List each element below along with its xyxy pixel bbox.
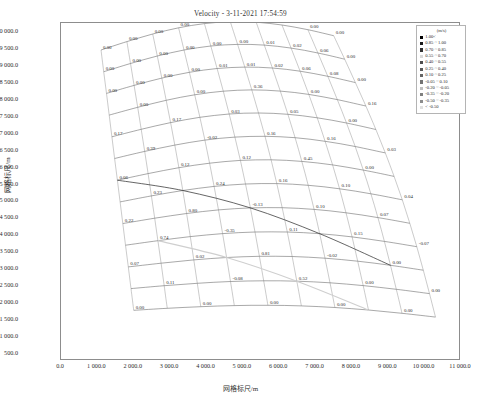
mesh-line bbox=[101, 50, 134, 310]
node-value-label: 0.01 bbox=[247, 62, 256, 67]
node-value-label: 0.11 bbox=[289, 227, 298, 232]
node-value-label: 0.05 bbox=[290, 109, 299, 114]
legend-entry-label: -0.35 ~ -0.20 bbox=[425, 92, 449, 97]
node-value-label: 0.16 bbox=[368, 101, 377, 106]
legend-entry-label: 1.00< bbox=[425, 35, 436, 40]
node-value-label: 0.00 bbox=[311, 89, 320, 94]
legend-entry-label: -0.05 ~ 0.10 bbox=[425, 80, 447, 85]
node-value-label: 0.16 bbox=[267, 131, 276, 136]
node-value-label: 0.02 bbox=[274, 63, 283, 68]
x-tick-label: 5 000.0 bbox=[233, 362, 252, 369]
x-tick-label: 2 000.0 bbox=[123, 362, 142, 369]
x-tick-label: 6 000.0 bbox=[269, 362, 288, 369]
legend-entry-label: 0.25 ~ 0.40 bbox=[425, 67, 446, 72]
node-value-label: 0.00 bbox=[404, 308, 413, 313]
y-tick-label: 7 500.0 bbox=[0, 111, 18, 118]
node-value-label: 0.06 bbox=[320, 48, 329, 53]
x-tick-label: 3 000.0 bbox=[160, 362, 179, 369]
node-value-label: -0.13 bbox=[252, 202, 263, 207]
node-value-label: -0.02 bbox=[207, 135, 218, 140]
y-tick-label: 500.0 bbox=[0, 348, 18, 355]
node-value-label: 0.02 bbox=[196, 254, 205, 259]
node-value-label: 0.06 bbox=[119, 175, 128, 180]
legend-color-swatch bbox=[420, 36, 423, 39]
legend-entry-label: -0.50 ~ -0.35 bbox=[425, 99, 449, 104]
x-tick-label: 11 000.0 bbox=[449, 362, 470, 369]
node-value-label: 0.07 bbox=[380, 212, 389, 217]
mesh-line bbox=[123, 208, 410, 224]
mesh-line bbox=[230, 23, 301, 306]
node-value-label: 0.00 bbox=[197, 89, 206, 94]
legend-color-swatch bbox=[420, 55, 423, 58]
node-value-label: 0.00 bbox=[109, 88, 118, 93]
node-value-label: 0.00 bbox=[181, 23, 190, 27]
node-value-label: 0.16 bbox=[279, 178, 288, 183]
y-axis-title: 网格标尺/m bbox=[2, 138, 12, 212]
node-value-label: 0.00 bbox=[136, 305, 145, 310]
legend-color-swatch bbox=[420, 93, 423, 96]
node-value-label: 0.00 bbox=[103, 45, 112, 50]
node-value-label: 0.00 bbox=[213, 41, 222, 46]
node-value-label: 0.15 bbox=[354, 231, 363, 236]
node-value-label: 0.74 bbox=[160, 235, 169, 240]
mesh-line bbox=[117, 160, 394, 180]
legend-color-swatch bbox=[420, 61, 423, 64]
node-value-label: 0.00 bbox=[270, 300, 279, 305]
node-value-label: 0.24 bbox=[216, 181, 225, 186]
node-value-label: 0.23 bbox=[153, 190, 162, 195]
node-value-label: 0.00 bbox=[203, 301, 212, 306]
node-value-label: 0.00 bbox=[133, 58, 142, 63]
node-value-label: 0.00 bbox=[432, 288, 441, 293]
y-tick-label: 4 000.0 bbox=[0, 230, 18, 237]
node-value-label: 0.10 bbox=[342, 183, 351, 188]
legend-entry-label: -0.20 ~ -0.05 bbox=[425, 86, 449, 91]
legend-entry-label: 0.55 ~ 0.70 bbox=[425, 54, 446, 59]
legend-color-swatch bbox=[420, 68, 423, 71]
legend-entry: < -0.50 bbox=[420, 104, 463, 110]
legend-entry-list: 1.00<0.85 ~ 1.000.70 ~ 0.850.55 ~ 0.700.… bbox=[420, 34, 463, 111]
node-value-label: 0.06 bbox=[302, 66, 311, 71]
node-value-label: 0.22 bbox=[125, 218, 134, 223]
x-tick-label: 7 000.0 bbox=[305, 362, 324, 369]
node-value-label: 0.17 bbox=[173, 117, 182, 122]
x-tick-label: 10 000.0 bbox=[413, 362, 435, 369]
y-tick-label: 3 500.0 bbox=[0, 247, 18, 254]
y-tick-label: 7 000.0 bbox=[0, 128, 18, 135]
node-value-label: 0.00 bbox=[393, 260, 402, 265]
x-tick-label: 9 000.0 bbox=[378, 362, 397, 369]
node-value-label: -0.35 bbox=[225, 228, 236, 233]
legend-color-swatch bbox=[420, 80, 423, 83]
node-value-label: 0.00 bbox=[191, 67, 200, 72]
node-value-label: 0.01 bbox=[266, 40, 275, 45]
y-tick-label: 2 500.0 bbox=[0, 280, 18, 287]
node-value-label: 0.00 bbox=[337, 302, 346, 307]
node-value-label: 0.00 bbox=[164, 73, 173, 78]
node-value-label: 0.81 bbox=[261, 251, 270, 256]
node-value-label: 0.00 bbox=[159, 51, 168, 56]
node-value-label: 0.00 bbox=[349, 118, 358, 123]
y-tick-label: 2 000.0 bbox=[0, 297, 18, 304]
y-tick-label: 3 000.0 bbox=[0, 264, 18, 271]
node-value-label: 0.07 bbox=[130, 261, 139, 266]
node-value-label: 0.00 bbox=[240, 39, 249, 44]
y-tick-label: 9 500.0 bbox=[0, 44, 18, 51]
node-value-label: 0.17 bbox=[114, 131, 123, 136]
plot-area: 0.000.000.000.000.000.000.000.000.000.00… bbox=[60, 22, 460, 360]
mesh-line bbox=[204, 24, 268, 306]
legend-entry-label: 0.85 ~ 1.00 bbox=[425, 41, 446, 46]
legend-entry-label: 0.70 ~ 0.85 bbox=[425, 48, 446, 53]
x-tick-label: 4 000.0 bbox=[196, 362, 215, 369]
node-value-label: 0.00 bbox=[357, 77, 366, 82]
y-tick-label: 1 500.0 bbox=[0, 314, 18, 321]
node-value-label: -0.07 bbox=[419, 241, 430, 246]
mesh-line bbox=[126, 232, 417, 247]
y-tick-label: 4 500.0 bbox=[0, 213, 18, 220]
mesh-line bbox=[120, 184, 402, 202]
node-value-label: 0.03 bbox=[387, 147, 396, 152]
legend-color-swatch bbox=[420, 100, 423, 103]
node-value-label: 0.00 bbox=[310, 24, 319, 29]
y-tick-label: 9 000.0 bbox=[0, 61, 18, 68]
node-value-label: 0.16 bbox=[327, 136, 336, 141]
node-value-label: -0.08 bbox=[233, 276, 244, 281]
node-value-label: 0.00 bbox=[136, 80, 145, 85]
